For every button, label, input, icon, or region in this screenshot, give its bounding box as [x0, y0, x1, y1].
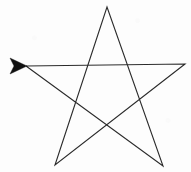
pentagram-path — [26, 7, 185, 166]
drawing-canvas — [0, 0, 191, 172]
direction-arrowhead-icon — [10, 58, 27, 74]
star-figure-svg — [0, 0, 191, 172]
